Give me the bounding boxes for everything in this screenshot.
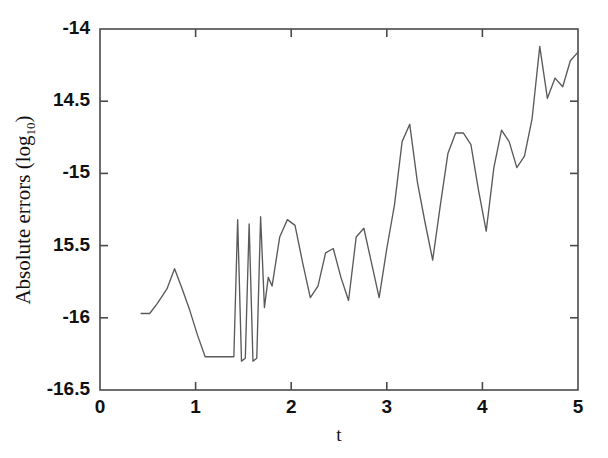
y-axis-title-subscript: 10 bbox=[23, 122, 38, 135]
y-tick-label: 15.5 bbox=[53, 234, 90, 255]
y-tick-label: 14.5 bbox=[53, 89, 90, 110]
y-axis-title-main: Absolute errors (log bbox=[11, 135, 35, 305]
x-axis-title: t bbox=[336, 424, 342, 445]
y-tick-label: -16.5 bbox=[47, 378, 91, 399]
chart-figure: -1414.5-1515.5-16-16.5 012345 t Absolute… bbox=[0, 0, 608, 458]
absolute-error-line-chart: -1414.5-1515.5-16-16.5 012345 t Absolute… bbox=[0, 0, 608, 458]
y-axis-tick-labels: -1414.5-1515.5-16-16.5 bbox=[47, 17, 91, 399]
y-tick-label: -16 bbox=[63, 306, 90, 327]
y-axis-ticks bbox=[100, 101, 578, 318]
plot-area-frame bbox=[100, 29, 578, 390]
y-tick-label: -14 bbox=[63, 17, 91, 38]
x-tick-label: 1 bbox=[190, 396, 201, 417]
x-axis-tick-labels: 012345 bbox=[95, 396, 584, 417]
x-tick-label: 3 bbox=[382, 396, 393, 417]
y-axis-title-close-paren: ) bbox=[11, 115, 35, 122]
y-tick-label: -15 bbox=[63, 161, 91, 182]
data-series-group bbox=[141, 46, 578, 361]
data-series-line bbox=[141, 46, 578, 361]
x-tick-label: 5 bbox=[573, 396, 584, 417]
x-tick-label: 0 bbox=[95, 396, 106, 417]
y-axis-title: Absolute errors (log10) bbox=[11, 115, 38, 304]
x-tick-label: 4 bbox=[477, 396, 488, 417]
x-tick-label: 2 bbox=[286, 396, 297, 417]
